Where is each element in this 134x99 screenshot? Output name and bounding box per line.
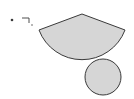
- geometry-diagram: [0, 0, 134, 99]
- small-dot: [31, 24, 32, 25]
- tangent-circle: [85, 59, 121, 95]
- corner-bracket: [22, 18, 29, 23]
- marker-dot: [11, 19, 14, 22]
- circular-sector: [39, 14, 125, 60]
